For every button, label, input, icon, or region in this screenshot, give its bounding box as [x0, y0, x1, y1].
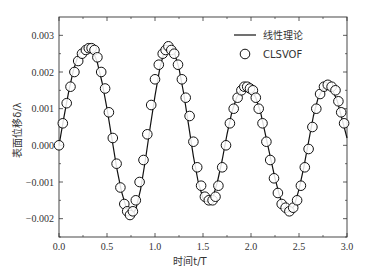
- clsvof-point: [312, 104, 322, 114]
- x-tick-label: 1.5: [197, 241, 210, 252]
- legend-circle-icon: [240, 49, 250, 59]
- clsvof-point: [225, 119, 235, 129]
- clsvof-point: [154, 60, 164, 70]
- clsvof-point: [150, 75, 160, 85]
- clsvof-point: [229, 104, 239, 114]
- clsvof-point: [104, 108, 114, 118]
- legend: 线性理论 CLSVOF: [234, 29, 303, 60]
- clsvof-point: [308, 122, 318, 132]
- clsvof-point: [254, 104, 264, 114]
- legend-label-clsvof: CLSVOF: [263, 49, 302, 60]
- clsvof-point: [185, 111, 195, 121]
- clsvof-point: [181, 93, 191, 103]
- clsvof-point: [331, 86, 341, 96]
- clsvof-point: [62, 98, 72, 108]
- x-tick-label: 2.0: [245, 241, 258, 252]
- y-tick-label: 0.001: [32, 103, 55, 114]
- x-tick-label: 0.0: [53, 241, 66, 252]
- clsvof-point: [128, 207, 138, 217]
- clsvof-point: [217, 163, 227, 173]
- clsvof-point: [196, 181, 206, 191]
- clsvof-point: [296, 181, 306, 191]
- y-tick-label: 0.000: [32, 140, 55, 151]
- clsvof-point: [54, 141, 64, 151]
- clsvof-point: [334, 97, 344, 107]
- clsvof-point: [173, 60, 183, 70]
- clsvof-point: [131, 196, 141, 206]
- clsvof-point: [143, 130, 153, 140]
- clsvof-point: [66, 82, 76, 92]
- clsvof-point: [336, 108, 346, 118]
- clsvof-point: [269, 174, 279, 184]
- y-tick-label: 0.002: [32, 67, 55, 78]
- clsvof-point: [292, 196, 302, 206]
- clsvof-point: [221, 141, 231, 151]
- plot-border: [59, 17, 347, 237]
- x-tick-label: 0.5: [101, 241, 114, 252]
- y-axis-label: 表面位移δ/λ: [11, 102, 23, 157]
- clsvof-point: [96, 67, 106, 77]
- x-tick-label: 2.5: [293, 241, 306, 252]
- x-axis-label: 时间t/T: [173, 255, 207, 267]
- clsvof-point: [58, 119, 68, 129]
- clsvof-markers: [54, 42, 349, 220]
- clsvof-point: [304, 144, 314, 154]
- clsvof-point: [258, 119, 268, 129]
- x-tick-label: 1.0: [149, 241, 162, 252]
- clsvof-point: [135, 177, 145, 187]
- clsvof-point: [189, 137, 199, 147]
- clsvof-point: [100, 84, 110, 94]
- y-tick-label: −0.001: [26, 177, 54, 188]
- clsvof-point: [169, 49, 179, 59]
- clsvof-point: [146, 100, 156, 110]
- chart: 0.00.51.01.52.02.53.0 −0.002−0.0010.0000…: [0, 0, 373, 274]
- clsvof-point: [177, 75, 187, 85]
- clsvof-point: [251, 93, 261, 103]
- clsvof-point: [108, 133, 118, 143]
- clsvof-point: [112, 159, 122, 169]
- clsvof-point: [70, 67, 80, 77]
- clsvof-point: [116, 183, 126, 193]
- x-tick-label: 3.0: [341, 241, 354, 252]
- legend-label-linear-theory: 线性理论: [263, 29, 303, 41]
- clsvof-point: [192, 163, 202, 173]
- clsvof-point: [262, 137, 272, 147]
- y-tick-label: 0.003: [32, 30, 55, 41]
- clsvof-point: [139, 155, 149, 165]
- clsvof-point: [273, 188, 283, 198]
- clsvof-point: [339, 119, 349, 129]
- clsvof-point: [211, 192, 221, 202]
- clsvof-point: [93, 53, 103, 63]
- y-tick-label: −0.002: [26, 213, 54, 224]
- clsvof-point: [265, 155, 275, 165]
- clsvof-point: [300, 163, 310, 173]
- plot-frame: [59, 17, 347, 237]
- clsvof-point: [214, 181, 224, 191]
